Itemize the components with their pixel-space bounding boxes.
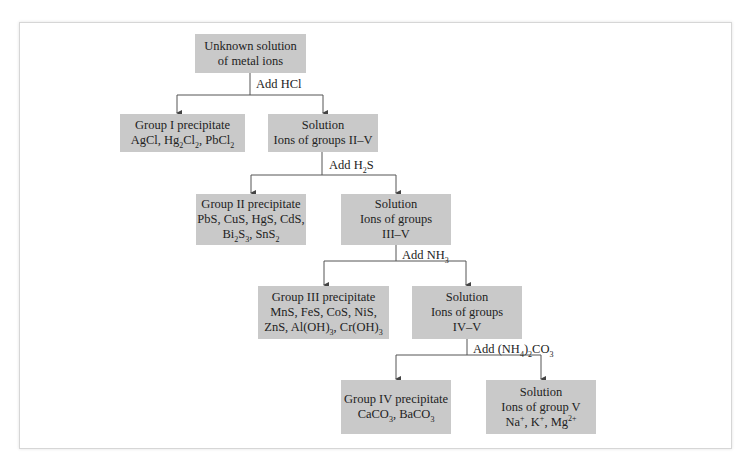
node-group4-precipitate: Group IV precipitate CaCO3, BaCO3 — [341, 380, 451, 434]
node-solution-groups-3-5: Solution Ions of groups III–V — [341, 194, 451, 245]
node-solution-group-5: Solution Ions of group V Na+, K+, Mg2+ — [486, 380, 596, 434]
node-unknown-solution: Unknown solution of metal ions — [195, 34, 306, 73]
node-solution-groups-4-5: Solution Ions of groups IV–V — [412, 286, 522, 339]
node-line: of metal ions — [218, 54, 283, 69]
node-solution-groups-2-5: Solution Ions of groups II–V — [268, 114, 378, 152]
node-line: Solution — [375, 197, 417, 212]
reagent-nh4-2co3-label: Add (NH4)2CO3 — [473, 342, 553, 357]
node-formula: CaCO3, BaCO3 — [358, 407, 435, 422]
node-group2-precipitate: Group II precipitate PbS, CuS, HgS, CdS,… — [196, 194, 306, 245]
node-line: Group IV precipitate — [344, 392, 448, 407]
node-line: Group II precipitate — [201, 197, 300, 212]
node-line: PbS, CuS, HgS, CdS, — [197, 212, 304, 227]
reagent-nh3-label: Add NH3 — [402, 248, 449, 263]
node-line: MnS, FeS, CoS, NiS, — [270, 305, 377, 320]
node-formula: Bi2S3, SnS2 — [222, 227, 279, 242]
node-line: Solution — [302, 118, 344, 133]
node-line: Group III precipitate — [272, 290, 375, 305]
node-line: Ions of groups — [431, 305, 503, 320]
node-formula: Na+, K+, Mg2+ — [505, 415, 576, 430]
node-line: Solution — [520, 385, 562, 400]
node-formula: AgCl, Hg2Cl2, PbCl2 — [131, 133, 235, 148]
reagent-h2s-label: Add H2S — [329, 158, 374, 173]
node-line: Group I precipitate — [135, 118, 230, 133]
node-formula: ZnS, Al(OH)3, Cr(OH)3 — [264, 320, 382, 335]
node-line: Unknown solution — [204, 39, 297, 54]
node-line: Ions of group V — [501, 400, 580, 415]
node-line: Ions of groups — [360, 212, 432, 227]
node-line: Ions of groups II–V — [274, 133, 373, 148]
reagent-hcl-label: Add HCl — [256, 77, 302, 92]
node-line: Solution — [446, 290, 488, 305]
node-line: IV–V — [453, 320, 481, 335]
node-line: III–V — [382, 227, 410, 242]
node-group1-precipitate: Group I precipitate AgCl, Hg2Cl2, PbCl2 — [120, 114, 245, 152]
node-group3-precipitate: Group III precipitate MnS, FeS, CoS, NiS… — [258, 286, 389, 339]
